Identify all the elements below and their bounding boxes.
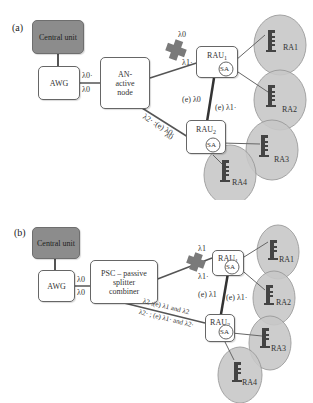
rau1-box: RAU1 bbox=[196, 46, 238, 78]
cross-bottom-label: λ1· bbox=[182, 58, 193, 67]
fiber-break-icon bbox=[184, 250, 207, 273]
link-right-label: (e) λ1· bbox=[215, 103, 236, 112]
central-unit-label: Central unit bbox=[39, 33, 77, 42]
cross-top-label: λ1 bbox=[198, 244, 206, 253]
sa-label-rau1: SA bbox=[226, 263, 235, 272]
node-label-line1: PSC – passive bbox=[101, 269, 147, 278]
rau2-box: RAU2 bbox=[186, 120, 226, 154]
sa-label-rau2: SA bbox=[220, 328, 229, 337]
link-left-label: (e) λ1 bbox=[198, 290, 217, 299]
node-label-line2: active bbox=[115, 79, 134, 88]
sa-label-rau1: SA bbox=[220, 65, 229, 74]
awg-box: AWG bbox=[38, 270, 75, 302]
radio-cell-ra1 bbox=[257, 225, 299, 279]
panel-b: (b) Central unit AWG λ0 λ0 PSC – passive… bbox=[0, 200, 313, 403]
central-unit-label: Central unit bbox=[37, 239, 75, 248]
cross-bottom-label: λ1· bbox=[198, 272, 209, 281]
ra2-label: RA2 bbox=[276, 298, 291, 307]
node-label-line1: AN- bbox=[118, 70, 132, 79]
rau2-label: RAU2 bbox=[196, 125, 216, 134]
rau2-label: RAU2 bbox=[210, 318, 230, 327]
node-label-line2: splitter bbox=[113, 278, 135, 287]
rau1-label: RAU1 bbox=[218, 254, 238, 263]
rau1-label: RAU1 bbox=[207, 51, 227, 60]
awg-output-top-label: λ0· bbox=[82, 71, 93, 80]
node-label-line3: combiner bbox=[109, 287, 139, 296]
ra1-label: RA1 bbox=[279, 255, 294, 264]
awg-label: AWG bbox=[50, 79, 68, 88]
panel-a-label: (a) bbox=[12, 22, 23, 33]
awg-output-bottom-label: λ0 bbox=[82, 85, 90, 94]
sa-label-rau2: SA bbox=[207, 141, 216, 150]
radio-cell-ra1 bbox=[254, 15, 306, 75]
ra4-label: RA4 bbox=[242, 378, 257, 387]
link-right-label: (e) λ1· bbox=[226, 293, 247, 302]
panel-a: (a) Central unit AWG λ0· λ0 AN- active n… bbox=[0, 0, 313, 200]
ra4-label: RA4 bbox=[232, 178, 247, 187]
awg-box: AWG bbox=[38, 66, 80, 100]
radio-cell-ra4 bbox=[218, 347, 262, 403]
cross-top-label: λ0 bbox=[178, 30, 186, 39]
awg-label: AWG bbox=[47, 282, 65, 291]
node-label-line3: node bbox=[117, 88, 133, 97]
ra1-label: RA1 bbox=[283, 43, 298, 52]
central-unit-box: Central unit bbox=[32, 227, 80, 259]
awg-output-bottom-label: λ0 bbox=[77, 288, 85, 297]
awg-output-top-label: λ0 bbox=[77, 275, 85, 284]
link-left-label: (e) λ0 bbox=[182, 95, 201, 104]
ra3-label: RA3 bbox=[271, 344, 286, 353]
ra3-label: RA3 bbox=[274, 155, 289, 164]
ra2-label: RA2 bbox=[282, 105, 297, 114]
central-unit-box: Central unit bbox=[32, 20, 84, 54]
panel-b-label: (b) bbox=[14, 227, 26, 238]
active-node-box: AN- active node bbox=[100, 57, 150, 109]
